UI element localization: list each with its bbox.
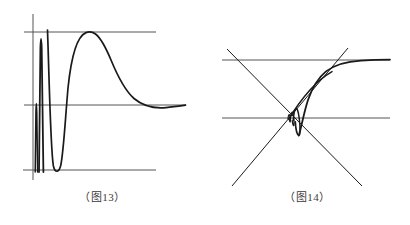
figure-page: （图13） （图14） <box>0 0 410 225</box>
curve-main-14 <box>299 60 390 136</box>
figure-14-plot <box>205 0 410 190</box>
figure-13: （图13） <box>0 0 205 225</box>
figure-13-caption: （图13） <box>0 188 205 204</box>
figure-14: （图14） <box>205 0 410 225</box>
curve-main-13 <box>48 30 186 171</box>
figure-14-caption: （图14） <box>205 188 410 204</box>
curve-spike-short-13 <box>35 104 37 173</box>
figure-13-plot <box>0 0 205 190</box>
